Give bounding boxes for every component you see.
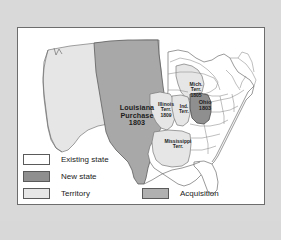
legend-item-territory: Territory [23, 186, 109, 201]
legend-item-new-state: New state [23, 169, 109, 184]
map-panel: Louisiana Purchase 1803 Mich. Terr. 1805… [17, 27, 265, 205]
existing-state-swatch [23, 154, 50, 165]
acquisition-swatch [142, 188, 169, 199]
legend-item-acquisition: Acquisition [142, 186, 219, 201]
maine-outline [238, 52, 254, 72]
territory-swatch [23, 188, 50, 199]
legend-label-existing-state: Existing state [61, 155, 109, 164]
legend-label-acquisition: Acquisition [180, 189, 219, 198]
legend-primary-column: Existing state New state Territory [23, 152, 109, 203]
legend-label-territory: Territory [61, 189, 90, 198]
legend-item-existing-state: Existing state [23, 152, 109, 167]
ohio-region [190, 93, 211, 124]
legend-label-new-state: New state [61, 172, 97, 181]
new-state-swatch [23, 171, 50, 182]
map-legend: Existing state New state Territory Acqui… [20, 152, 262, 202]
